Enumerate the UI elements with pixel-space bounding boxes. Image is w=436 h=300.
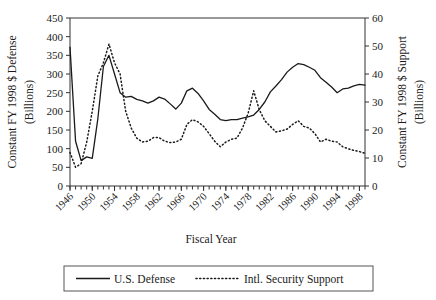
x-tick-label-1974: 1974 [209,190,232,213]
right-tick-label-30: 30 [372,96,384,108]
y-axis-title-left-line2: (Billions) [23,80,36,124]
line-chart-figure: 050100150200250300350400450 010203040506… [0,0,436,300]
left-tick-label-300: 300 [47,68,64,80]
chart-container: 050100150200250300350400450 010203040506… [0,0,436,300]
left-tick-label-250: 250 [47,87,64,99]
y-axis-title-left: Constant FY 1998 $ Defense (Billions) [6,35,36,168]
legend-label-intl-security-support: Intl. Security Support [244,273,344,286]
y-axis-title-left-line1: Constant FY 1998 $ Defense [6,35,18,168]
x-axis-title: Fiscal Year [185,233,236,245]
x-tick-label-1954: 1954 [97,190,120,213]
x-tick-label-1970: 1970 [186,191,209,214]
left-tick-label-50: 50 [52,161,64,173]
x-tick-label-1986: 1986 [275,191,298,214]
legend-label-us-defense: U.S. Defense [114,273,175,285]
x-tick-label-1982: 1982 [253,191,276,214]
y-axis-title-right-line1: Constant FY 1998 $ Support [396,35,409,168]
left-tick-label-200: 200 [47,105,64,117]
left-axis-ticks: 050100150200250300350400450 [47,12,71,192]
x-axis-tick-labels: 1946195019541958196219661970197419781982… [53,190,365,213]
left-tick-label-0: 0 [58,180,64,192]
right-tick-label-0: 0 [372,180,378,192]
left-tick-label-150: 150 [47,124,64,136]
y-axis-title-right: Constant FY 1998 $ Support (Billions) [396,35,426,168]
left-tick-label-350: 350 [47,49,64,61]
right-tick-label-20: 20 [372,124,384,136]
left-tick-label-100: 100 [47,143,64,155]
x-tick-label-1998: 1998 [342,191,365,214]
x-tick-label-1946: 1946 [53,191,76,214]
x-tick-label-1994: 1994 [320,190,343,213]
right-axis-ticks: 0102030405060 [365,12,384,192]
x-tick-label-1962: 1962 [142,191,165,214]
left-tick-label-400: 400 [47,31,64,43]
plot-frame [70,18,365,186]
x-tick-label-1978: 1978 [231,191,254,214]
legend: U.S. Defense Intl. Security Support [64,266,373,291]
x-tick-label-1958: 1958 [120,191,143,214]
x-tick-label-1966: 1966 [164,191,187,214]
series-line-intl-security-support [70,44,365,167]
right-tick-label-40: 40 [372,68,384,80]
right-tick-label-50: 50 [372,40,384,52]
right-tick-label-60: 60 [372,12,384,24]
y-axis-title-right-line2: (Billions) [413,80,426,124]
x-tick-label-1950: 1950 [75,191,98,214]
left-tick-label-450: 450 [47,12,64,24]
right-tick-label-10: 10 [372,152,384,164]
x-tick-label-1990: 1990 [298,191,321,214]
